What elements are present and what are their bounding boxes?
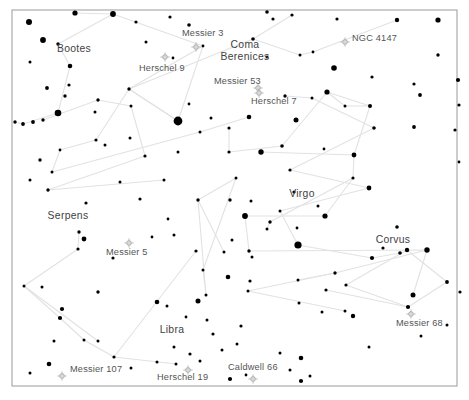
constellation-label-serpens: Serpens bbox=[48, 210, 89, 221]
star-dot bbox=[68, 64, 73, 69]
chart-frame bbox=[12, 10, 457, 386]
star-dot bbox=[172, 57, 175, 60]
star-dot bbox=[395, 225, 399, 229]
star-dot bbox=[26, 19, 32, 25]
star-dot bbox=[435, 17, 440, 22]
star-dot bbox=[309, 375, 312, 378]
star-dot bbox=[187, 23, 191, 27]
star-dot bbox=[228, 198, 231, 201]
star-dot bbox=[420, 335, 423, 338]
star-dot bbox=[96, 290, 99, 293]
star-dot bbox=[145, 41, 148, 44]
star-dot bbox=[23, 285, 26, 288]
star-dot bbox=[242, 213, 248, 219]
star-dot bbox=[321, 311, 324, 314]
star-dot bbox=[156, 361, 159, 364]
star-dot bbox=[290, 13, 293, 16]
dso-label-messier-107: Messier 107 bbox=[70, 364, 122, 374]
star-dot bbox=[265, 10, 269, 14]
star-dot bbox=[457, 103, 460, 106]
star-dot bbox=[395, 18, 399, 22]
star-chart-root: BootesComaBerenicesVirgoSerpensLibraCorv… bbox=[0, 0, 469, 400]
star-dot bbox=[245, 374, 248, 377]
star-dot bbox=[112, 355, 115, 358]
constellation-label-bootes: Bootes bbox=[57, 43, 91, 54]
constellation-label-virgo: Virgo bbox=[289, 188, 315, 199]
star-dot bbox=[299, 379, 303, 383]
star-dot bbox=[412, 125, 416, 129]
star-dot bbox=[134, 20, 137, 23]
dso-core-icon bbox=[343, 40, 348, 45]
star-dot bbox=[168, 15, 171, 18]
star-dot bbox=[29, 372, 32, 375]
star-dot bbox=[299, 356, 304, 361]
star-dot bbox=[258, 149, 263, 154]
star-dot bbox=[381, 246, 384, 249]
star-dot bbox=[231, 239, 234, 242]
star-dot bbox=[294, 118, 299, 123]
star-dot bbox=[351, 314, 355, 318]
star-dot bbox=[372, 126, 376, 130]
star-dot bbox=[76, 247, 79, 250]
constellation-label-corvus: Corvus bbox=[376, 234, 411, 245]
star-dot bbox=[58, 316, 62, 320]
dso-core-icon bbox=[251, 377, 256, 382]
star-dot bbox=[279, 352, 282, 355]
star-dot bbox=[228, 377, 232, 381]
star-dot bbox=[235, 177, 238, 180]
star-dot bbox=[324, 288, 327, 291]
star-dot bbox=[298, 302, 301, 305]
star-dot bbox=[312, 51, 315, 54]
star-dot bbox=[236, 343, 239, 346]
star-dot bbox=[223, 251, 226, 254]
star-dot bbox=[446, 324, 449, 327]
star-dot bbox=[344, 283, 347, 286]
star-dot bbox=[63, 94, 66, 97]
constellation-label-libra: Libra bbox=[160, 324, 185, 335]
star-dot bbox=[82, 237, 87, 242]
star-dot bbox=[175, 363, 178, 366]
star-dot bbox=[163, 179, 166, 182]
star-dot bbox=[94, 138, 97, 141]
star-dot bbox=[31, 120, 35, 124]
constellation-label-coma-berenices: Coma bbox=[231, 39, 260, 50]
star-dot bbox=[29, 179, 32, 182]
star-dot bbox=[227, 150, 230, 153]
dso-label-herschel-7: Herschel 7 bbox=[251, 96, 297, 106]
star-dot bbox=[456, 78, 460, 82]
star-dot bbox=[174, 117, 183, 126]
star-dot bbox=[458, 161, 461, 164]
dso-core-icon bbox=[256, 86, 261, 91]
star-dot bbox=[239, 324, 242, 327]
star-dot bbox=[405, 248, 409, 252]
star-dot bbox=[166, 305, 169, 308]
star-dot bbox=[129, 137, 132, 140]
star-dot bbox=[205, 294, 208, 297]
star-dot bbox=[424, 247, 429, 252]
star-dot bbox=[83, 339, 86, 342]
dso-label-messier-5: Messier 5 bbox=[106, 247, 148, 257]
star-dot bbox=[202, 45, 205, 48]
star-dot bbox=[279, 210, 282, 213]
star-dot bbox=[324, 89, 329, 94]
star-dot bbox=[196, 198, 199, 201]
star-dot bbox=[250, 200, 253, 203]
star-dot bbox=[151, 236, 154, 239]
star-dot bbox=[72, 10, 77, 15]
star-dot bbox=[155, 300, 160, 305]
star-dot bbox=[177, 151, 180, 154]
star-dot bbox=[202, 269, 205, 272]
dso-core-icon bbox=[127, 241, 132, 246]
dso-label-caldwell-66: Caldwell 66 bbox=[228, 362, 278, 372]
dso-label-herschel-19: Herschel 19 bbox=[157, 372, 208, 382]
star-dot bbox=[226, 275, 231, 280]
star-dot bbox=[51, 171, 54, 174]
star-dot bbox=[84, 201, 87, 204]
star-dot bbox=[45, 86, 49, 90]
star-dot bbox=[173, 346, 176, 349]
star-dot bbox=[367, 186, 372, 191]
star-dot bbox=[188, 352, 191, 355]
star-dot bbox=[13, 120, 16, 123]
star-dot bbox=[322, 213, 327, 218]
sky-map-svg: BootesComaBerenicesVirgoSerpensLibraCorv… bbox=[0, 0, 469, 400]
